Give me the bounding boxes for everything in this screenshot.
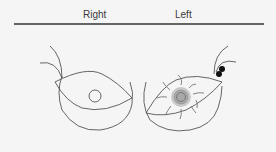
left-axilla-curve-lower <box>216 61 236 72</box>
right-breast <box>40 46 133 130</box>
right-nipple-icon <box>89 90 101 102</box>
lesion-mass <box>174 90 188 104</box>
right-axilla-curve-lower <box>40 63 62 78</box>
lymph-node-icon <box>219 66 225 72</box>
breast-diagram <box>0 0 276 152</box>
left-breast <box>144 46 236 131</box>
lesion <box>157 75 204 119</box>
lymph-node-icon <box>216 71 222 77</box>
